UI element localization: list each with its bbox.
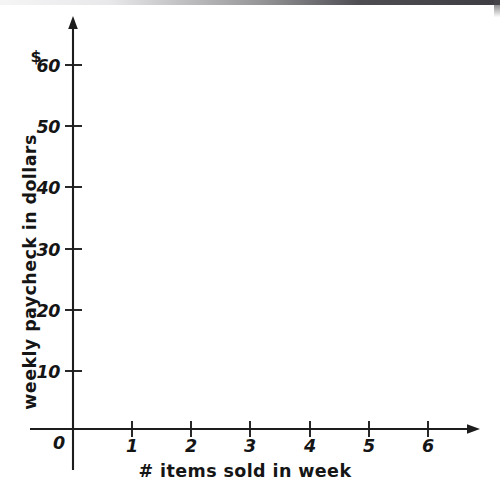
figure-canvas: 60 50 40 30 20 10 $ weekly paycheck in d… <box>0 0 500 496</box>
dollar-sign-annotation: $ <box>30 47 41 66</box>
x-tick-label-4: 4 <box>303 436 316 456</box>
y-tick-label-30: 30 <box>36 240 60 260</box>
x-axis-arrowhead-icon <box>467 424 480 434</box>
x-tick-label-5: 5 <box>363 436 375 456</box>
y-axis-group: 60 50 40 30 20 10 $ weekly paycheck in d… <box>20 16 82 470</box>
y-tick-label-10: 10 <box>36 362 60 382</box>
x-tick-label-0: 0 <box>53 433 65 453</box>
y-axis-arrowhead-icon <box>68 16 78 29</box>
x-tick-label-1: 1 <box>126 436 138 456</box>
y-axis-title: weekly paycheck in dollars <box>20 134 40 409</box>
x-tick-label-6: 6 <box>422 436 434 456</box>
coordinate-plot: 60 50 40 30 20 10 $ weekly paycheck in d… <box>0 0 500 496</box>
x-axis-title: # items sold in week <box>139 461 352 481</box>
x-tick-label-2: 2 <box>185 436 197 456</box>
y-tick-label-50: 50 <box>36 117 60 137</box>
x-tick-label-3: 3 <box>244 436 256 456</box>
x-axis-group: 0 1 2 3 4 5 6 # items sold in week <box>30 421 480 481</box>
y-tick-label-20: 20 <box>36 301 60 321</box>
